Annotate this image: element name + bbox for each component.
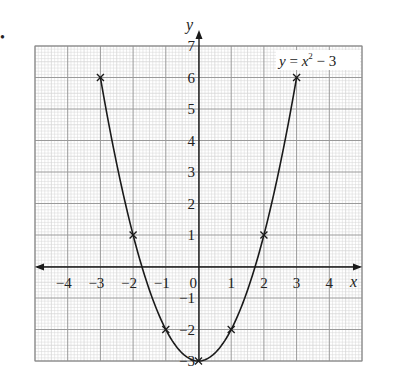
y-tick-label: −3 <box>179 353 195 369</box>
x-tick-label: 0 <box>190 275 198 291</box>
y-tick-label: 2 <box>188 196 196 212</box>
x-tick-label: −3 <box>88 275 104 291</box>
quadratic-graph: −4−3−2−101234 7654321−1−2−3 x y y = x2 −… <box>0 0 394 385</box>
y-tick-label: −1 <box>179 290 195 306</box>
y-tick-label: 3 <box>188 164 196 180</box>
y-axis <box>196 30 203 361</box>
y-axis-label: y <box>184 16 194 34</box>
x-tick-label: −2 <box>121 275 137 291</box>
y-axis-up-arrow-icon <box>196 30 203 39</box>
y-tick-label: 6 <box>188 70 196 86</box>
y-tick-label: 5 <box>188 101 196 117</box>
x-tick-label: 2 <box>260 275 268 291</box>
x-tick-labels: −4−3−2−101234 <box>56 275 334 291</box>
y-tick-label: −2 <box>179 322 195 338</box>
x-tick-label: 3 <box>293 275 301 291</box>
x-tick-label: −4 <box>56 275 72 291</box>
question-marker: • <box>0 30 5 45</box>
x-axis-label: x <box>349 273 357 290</box>
y-tick-label: 4 <box>188 133 196 149</box>
y-tick-label: 1 <box>188 227 196 243</box>
x-tick-label: −1 <box>154 275 170 291</box>
x-tick-label: 4 <box>326 275 334 291</box>
equation-label: y = x2 − 3 <box>277 51 336 69</box>
x-tick-label: 1 <box>227 275 235 291</box>
y-tick-label: 7 <box>188 38 196 54</box>
